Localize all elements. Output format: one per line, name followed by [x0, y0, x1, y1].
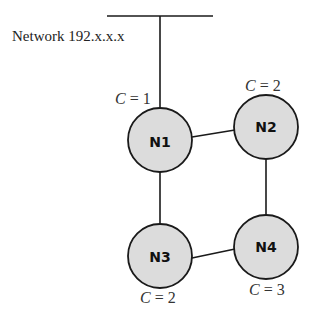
edge-n3-n4	[192, 249, 235, 258]
node-n3-label: N3	[149, 249, 170, 265]
node-n4-label: N4	[255, 239, 277, 255]
network-diagram: Network 192.x.x.x N1 C = 1 N2 C = 2 N3 C…	[0, 0, 313, 316]
node-n1-cost: C = 1	[115, 90, 151, 107]
node-n1: N1 C = 1	[115, 90, 192, 172]
node-n2: N2 C = 2	[234, 77, 298, 159]
node-n4-cost: C = 3	[249, 281, 285, 298]
node-n1-label: N1	[149, 134, 170, 150]
node-n2-label: N2	[255, 119, 276, 135]
node-n4: N4 C = 3	[234, 215, 298, 298]
node-n2-cost: C = 2	[245, 77, 281, 94]
node-n3-cost: C = 2	[140, 289, 176, 306]
network-label: Network 192.x.x.x	[12, 28, 125, 44]
edge-n1-n2	[192, 130, 235, 137]
node-n3: N3 C = 2	[128, 224, 192, 306]
